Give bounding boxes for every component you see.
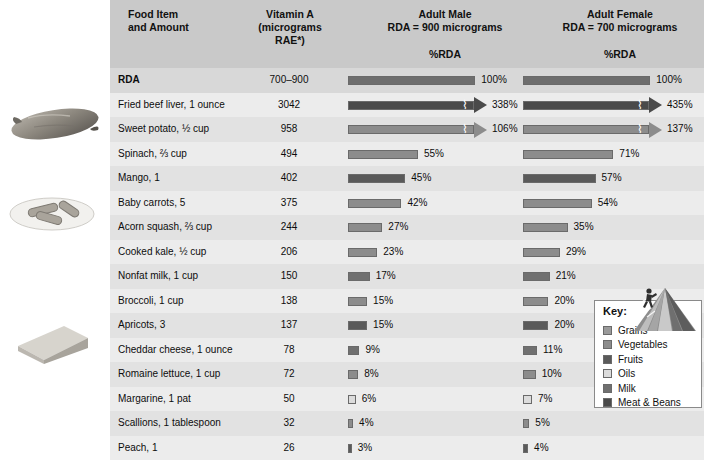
male-rda-bar-cell: ⌇106% [348, 117, 526, 142]
male-rda-bar [348, 297, 367, 306]
female-rda-bar [523, 419, 529, 428]
female-rda-percent-label: 71% [619, 142, 639, 167]
vitamin-a-amount: 402 [235, 166, 343, 191]
header-female-line1: Adult Female [530, 8, 704, 21]
female-bar-arrowhead [649, 97, 662, 113]
male-rda-percent-label: 23% [383, 240, 403, 265]
female-rda-percent-label: 5% [535, 411, 549, 436]
female-rda-percent-label: 21% [556, 264, 576, 289]
female-rda-percent-label: 435% [667, 93, 693, 118]
male-rda-bar [348, 346, 359, 355]
food-item-name: Nonfat milk, 1 cup [118, 264, 238, 289]
food-item-name: Sweet potato, ½ cup [118, 117, 238, 142]
male-rda-bar-cell: 42% [348, 191, 526, 216]
table-row: RDA700–900100%100% [110, 68, 704, 93]
food-item-name: Romaine lettuce, 1 cup [118, 362, 238, 387]
male-rda-bar [348, 76, 475, 85]
legend-label: Vegetables [618, 339, 668, 350]
cheese-wedge-photo [10, 320, 100, 364]
male-rda-bar-cell: 4% [348, 411, 526, 436]
header-vitamin-line1: Vitamin A [230, 8, 350, 21]
male-rda-percent-label: 8% [364, 362, 378, 387]
male-rda-bar [348, 101, 474, 110]
male-rda-percent-label: 55% [424, 142, 444, 167]
male-rda-percent-label: 27% [388, 215, 408, 240]
legend-swatch [603, 355, 612, 364]
female-rda-bar [523, 125, 649, 134]
female-rda-bar [523, 272, 550, 281]
female-rda-bar-cell: ⌇435% [523, 93, 704, 118]
table-row: Mango, 140245%57% [110, 166, 704, 191]
mypyramid-icon [632, 285, 698, 335]
legend-swatch [603, 384, 612, 393]
food-item-name: Baby carrots, 5 [118, 191, 238, 216]
food-item-name: RDA [118, 68, 238, 93]
male-rda-bar [348, 150, 418, 159]
male-rda-percent-label: 15% [373, 313, 393, 338]
male-rda-bar-cell: 6% [348, 387, 526, 412]
male-rda-percent-label: 15% [373, 289, 393, 314]
male-rda-bar [348, 272, 370, 281]
vitamin-a-amount: 137 [235, 313, 343, 338]
table-row: Baby carrots, 537542%54% [110, 191, 704, 216]
female-rda-bar [523, 199, 592, 208]
female-rda-bar [523, 150, 613, 159]
header-vitamin-line2: (micrograms [230, 21, 350, 34]
header-adult-male: Adult Male RDA = 900 micrograms [355, 8, 535, 34]
vitamin-a-amount: 206 [235, 240, 343, 265]
vitamin-a-amount: 3042 [235, 93, 343, 118]
vitamin-a-amount: 150 [235, 264, 343, 289]
male-rda-bar [348, 248, 377, 257]
vitamin-a-amount: 78 [235, 338, 343, 363]
legend-item: Meat & Beans [603, 396, 699, 410]
female-rda-percent-label: 20% [554, 313, 574, 338]
female-rda-bar [523, 346, 537, 355]
female-rda-bar-cell: 5% [523, 411, 704, 436]
female-rda-bar [523, 395, 532, 404]
header-female-pct-rda: %RDA [530, 48, 704, 60]
legend-item: Vegetables [603, 338, 699, 352]
female-rda-bar [523, 370, 536, 379]
female-rda-percent-label: 35% [574, 215, 594, 240]
female-rda-bar [523, 101, 649, 110]
legend-label: Fruits [618, 354, 643, 365]
female-rda-bar-cell: 29% [523, 240, 704, 265]
male-rda-percent-label: 4% [359, 411, 373, 436]
food-item-name: Cooked kale, ½ cup [118, 240, 238, 265]
legend-item: Milk [603, 381, 699, 395]
male-rda-percent-label: 6% [362, 387, 376, 412]
vitamin-a-chart: Food Item and Amount Vitamin A (microgra… [0, 0, 704, 473]
table-row: Fried beef liver, 1 ounce3042⌇338%⌇435% [110, 93, 704, 118]
table-row: Nonfat milk, 1 cup15017%21% [110, 264, 704, 289]
header-male-pct-rda: %RDA [355, 48, 535, 60]
vitamin-a-amount: 32 [235, 411, 343, 436]
header-female-line2: RDA = 700 micrograms [530, 21, 704, 34]
vitamin-a-amount: 72 [235, 362, 343, 387]
female-rda-bar-cell: 100% [523, 68, 704, 93]
legend-swatch [603, 340, 612, 349]
vitamin-a-amount: 26 [235, 436, 343, 461]
male-rda-bar [348, 223, 382, 232]
vitamin-a-amount: 375 [235, 191, 343, 216]
female-rda-percent-label: 57% [602, 166, 622, 191]
food-item-name: Cheddar cheese, 1 ounce [118, 338, 238, 363]
sweet-potato-photo [8, 100, 102, 144]
male-rda-bar [348, 199, 401, 208]
header-male-line2: RDA = 900 micrograms [355, 21, 535, 34]
female-rda-bar-cell: 71% [523, 142, 704, 167]
female-rda-percent-label: 100% [656, 68, 682, 93]
female-rda-bar-cell: 57% [523, 166, 704, 191]
female-rda-bar [523, 444, 528, 453]
male-rda-bar-cell: 23% [348, 240, 526, 265]
table-row: Peach, 1263%4% [110, 436, 704, 461]
food-item-name: Mango, 1 [118, 166, 238, 191]
male-rda-bar-cell: 100% [348, 68, 526, 93]
mango-photo [6, 192, 98, 232]
food-item-name: Peach, 1 [118, 436, 238, 461]
header-vitamin-line3: RAE*) [230, 34, 350, 47]
male-rda-bar-cell: 55% [348, 142, 526, 167]
legend-title: Key: [603, 305, 627, 317]
legend-label: Meat & Beans [618, 397, 681, 408]
legend-item: Oils [603, 367, 699, 381]
male-rda-bar [348, 125, 474, 134]
